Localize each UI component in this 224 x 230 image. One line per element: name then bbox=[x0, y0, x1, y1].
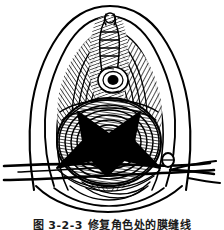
figure-caption-region: 图 3-2-3修复角色处的膜缝线 bbox=[0, 216, 224, 230]
figure-number: 图 3-2-3 bbox=[33, 219, 83, 230]
urethral-meatus bbox=[98, 67, 128, 93]
anatomical-illustration bbox=[0, 0, 224, 216]
instrument-knob bbox=[162, 153, 174, 167]
meatus-aperture bbox=[108, 75, 119, 85]
illustration-svg bbox=[0, 0, 224, 216]
figure-caption: 图 3-2-3修复角色处的膜缝线 bbox=[0, 220, 224, 230]
figure-page: 图 3-2-3修复角色处的膜缝线 bbox=[0, 0, 224, 230]
figure-caption-text: 修复角色处的膜缝线 bbox=[88, 219, 192, 230]
